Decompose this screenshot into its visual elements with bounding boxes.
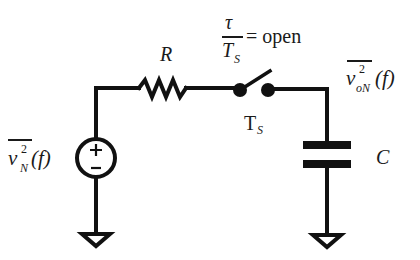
ground-icon-left: [82, 234, 110, 246]
resistor-label: R: [160, 44, 172, 64]
switch-condition-numerator: τ: [225, 12, 232, 32]
fraction-bar: [222, 36, 243, 38]
switch-condition-denominator: T: [222, 40, 233, 60]
source-label-sup: 2: [21, 143, 27, 155]
output-label-base: v: [346, 68, 355, 89]
switch-period-label: T: [244, 113, 256, 133]
switch-condition-denominator-sub: S: [234, 53, 240, 65]
source-label-overbar: [8, 139, 32, 141]
switch-period-sub: S: [257, 124, 263, 136]
wire-switch-capacitor: [268, 89, 327, 141]
source-label-arg: (f): [31, 148, 51, 169]
switch-contact-left: [233, 83, 247, 97]
switch-contact-right: [261, 83, 275, 97]
capacitor-plate-bottom: [303, 160, 351, 168]
plus-icon: [90, 144, 102, 156]
capacitor-plate-top: [303, 141, 351, 149]
source-label-sub: N: [20, 162, 28, 174]
ground-icon-right: [313, 235, 341, 247]
output-label-sup: 2: [359, 63, 365, 75]
circuit-schematic: [0, 0, 420, 260]
output-label-sub: oN: [356, 82, 370, 94]
wire-left-top: [96, 88, 139, 138]
source-label-base: v: [8, 148, 17, 169]
capacitor-label: C: [376, 147, 389, 167]
switch-condition-text: = open: [246, 26, 301, 46]
resistor: [139, 80, 186, 97]
output-label-arg: (f): [375, 68, 395, 89]
